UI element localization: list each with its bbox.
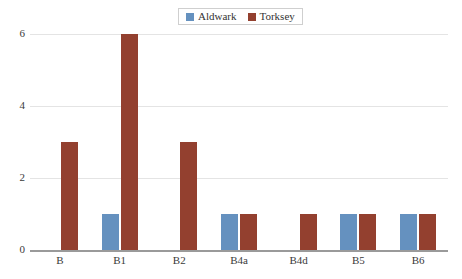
y-axis-tick-label: 0 xyxy=(0,244,25,255)
bar-torksey-b5[interactable] xyxy=(359,214,376,250)
bar-torksey-b[interactable] xyxy=(61,142,78,250)
y-axis-tick-label: 4 xyxy=(0,100,25,111)
legend-item-aldwark[interactable]: Aldwark xyxy=(186,11,237,22)
legend-swatch-torksey xyxy=(248,13,256,21)
x-axis-tick-label: B6 xyxy=(388,255,448,266)
x-axis-tick-label: B4a xyxy=(209,255,269,266)
x-axis-line xyxy=(30,250,448,252)
bar-torksey-b4d[interactable] xyxy=(300,214,317,250)
bar-chart: Aldwark Torksey 0246 BB1B2B4aB4dB5B6 xyxy=(0,0,462,279)
bar-torksey-b4a[interactable] xyxy=(240,214,257,250)
bar-aldwark-b4a[interactable] xyxy=(221,214,238,250)
bar-aldwark-b6[interactable] xyxy=(400,214,417,250)
plot-area xyxy=(30,34,448,250)
x-axis-tick-label: B5 xyxy=(328,255,388,266)
bar-aldwark-b5[interactable] xyxy=(340,214,357,250)
y-axis-tick-label: 6 xyxy=(0,28,25,39)
bar-torksey-b2[interactable] xyxy=(180,142,197,250)
bars-layer xyxy=(30,34,448,250)
y-axis-tick-label: 2 xyxy=(0,172,25,183)
legend-label-torksey: Torksey xyxy=(260,11,295,22)
legend-item-torksey[interactable]: Torksey xyxy=(248,11,295,22)
chart-legend: Aldwark Torksey xyxy=(178,8,303,25)
x-axis-tick-label: B xyxy=(30,255,90,266)
x-axis-tick-label: B2 xyxy=(149,255,209,266)
legend-swatch-aldwark xyxy=(186,13,194,21)
x-axis-tick-label: B4d xyxy=(269,255,329,266)
bar-aldwark-b1[interactable] xyxy=(102,214,119,250)
bar-torksey-b6[interactable] xyxy=(419,214,436,250)
x-axis-tick-label: B1 xyxy=(90,255,150,266)
bar-torksey-b1[interactable] xyxy=(121,34,138,250)
legend-label-aldwark: Aldwark xyxy=(198,11,237,22)
